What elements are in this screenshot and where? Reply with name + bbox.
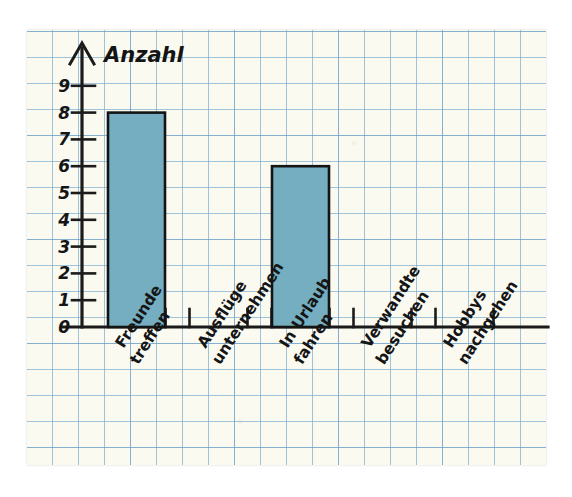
- y-tick-label: 6: [58, 156, 70, 176]
- y-tick-label: 8: [58, 103, 70, 123]
- y-axis-ticks: 0123456789: [57, 76, 95, 337]
- chart-screenshot: Anzahl 0123456789 FreundetreffenAusflüge…: [0, 0, 572, 497]
- y-tick-label: 9: [58, 76, 70, 96]
- y-tick-label: 7: [58, 129, 70, 149]
- y-tick-label: 1: [58, 290, 70, 310]
- y-tick-label: 5: [58, 183, 70, 203]
- y-tick-label: 2: [58, 263, 70, 283]
- category-label: Hobbysnachgehen: [437, 266, 522, 368]
- y-tick-label: 0: [58, 317, 70, 337]
- y-axis-title: Anzahl: [102, 43, 185, 67]
- y-tick-label: 3: [58, 237, 70, 257]
- category-label: Verwandtebesuchen: [355, 262, 442, 367]
- y-tick-label: 4: [57, 210, 70, 230]
- bar-chart-plot: Anzahl 0123456789 FreundetreffenAusflüge…: [0, 0, 572, 497]
